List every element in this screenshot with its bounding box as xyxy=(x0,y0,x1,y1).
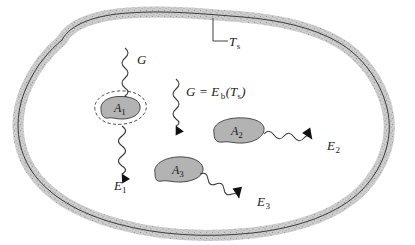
surface-a2-group: A2 xyxy=(214,118,264,143)
surface-a3-group: A3 xyxy=(155,157,203,182)
irradiation-left-label: G xyxy=(137,52,147,67)
enclosure-inner-contour xyxy=(18,12,389,235)
radiation-enclosure-figure: Ts G A1 E1 G=Eb(Ts) A2 xyxy=(0,0,415,245)
irradiation-center-label: G=Eb(Ts) xyxy=(186,84,246,101)
diagram-canvas: Ts G A1 E1 G=Eb(Ts) A2 xyxy=(0,0,415,245)
